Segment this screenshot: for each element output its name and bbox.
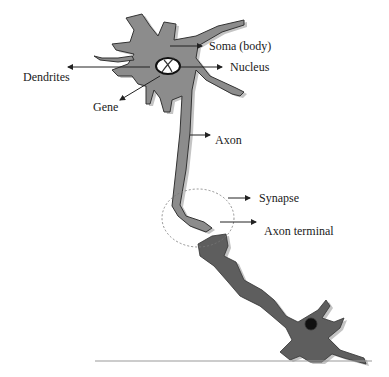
neuron-lower [198,234,366,364]
lower-nucleus [305,318,317,330]
soma-label: Soma (body) [209,40,271,52]
gene-label: Gene [93,101,118,113]
nucleus-label: Nucleus [230,61,269,73]
synapse-label: Synapse [259,192,299,204]
axon-terminal-label: Axon terminal [264,225,334,237]
axon-label: Axon [215,134,242,146]
nucleus [156,58,180,74]
neuron-diagram [0,0,389,377]
dendrites-label: Dendrites [23,71,70,83]
